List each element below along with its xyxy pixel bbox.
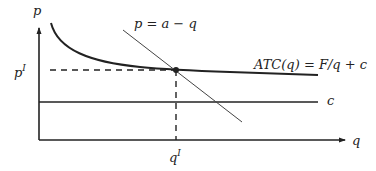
price-label: pI: [14, 63, 26, 80]
x-axis-label: q: [352, 133, 360, 148]
economics-diagram: p q pI qI p = a − q ATC(q) = F/q + c c: [0, 0, 376, 171]
demand-label: p = a − q: [134, 16, 197, 31]
price-label-sup: I: [21, 63, 26, 73]
equilibrium-point: [173, 67, 179, 73]
quantity-label: qI: [169, 148, 181, 165]
atc-label: ATC(q) = F/q + c: [253, 57, 368, 72]
quantity-label-base: q: [169, 150, 177, 165]
demand-line: [123, 30, 242, 122]
marginal-cost-label: c: [327, 93, 335, 108]
y-axis-label: p: [33, 3, 42, 18]
quantity-label-sup: I: [176, 148, 181, 158]
